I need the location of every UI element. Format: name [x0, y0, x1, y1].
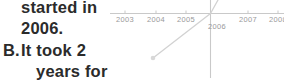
- chart-svg: [106, 0, 284, 84]
- worksheet-fragment: started in 2006. B. It took 2 years for …: [0, 0, 284, 84]
- question-text-block: started in 2006. B. It took 2 years for: [0, 0, 108, 84]
- x-tick-label-2008: 2008: [269, 15, 284, 24]
- x-tick-label-2004: 2004: [147, 15, 165, 24]
- line-chart: 2003 2004 2005 2006 2007 2008: [106, 0, 284, 84]
- text-line-3: It took 2: [21, 41, 86, 60]
- x-tick-label-2003: 2003: [116, 15, 134, 24]
- x-tick-label-2006: 2006: [208, 22, 226, 31]
- x-tick-label-2007: 2007: [239, 15, 257, 24]
- text-line-1: started in: [21, 0, 97, 17]
- text-line-2: 2006.: [21, 19, 63, 38]
- item-letter-b: B.: [3, 41, 20, 60]
- text-line-4: years for: [36, 62, 108, 81]
- x-tick-label-2005: 2005: [177, 15, 195, 24]
- data-point-marker: [151, 56, 156, 61]
